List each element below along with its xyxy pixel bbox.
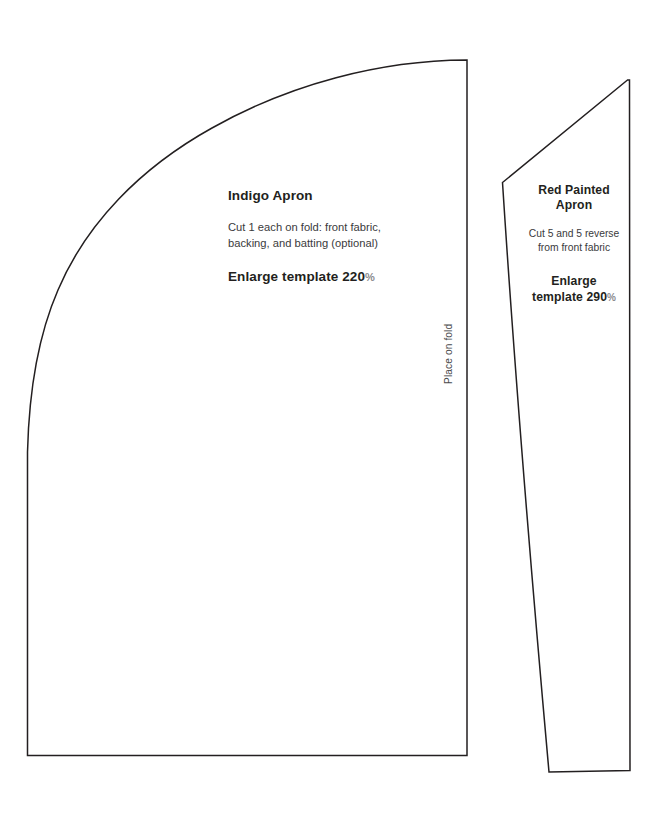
pattern-outlines	[0, 0, 662, 830]
pattern-sheet: Indigo Apron Cut 1 each on fold: front f…	[0, 0, 662, 830]
place-on-fold-note: Place on fold	[443, 370, 455, 384]
red-enlarge-line-1: Enlarge	[551, 274, 596, 288]
red-painted-apron-title: Red Painted Apron	[515, 183, 633, 213]
red-percent-symbol: %	[607, 292, 616, 303]
indigo-percent-symbol: %	[365, 271, 375, 283]
red-title-line-1: Red Painted	[538, 183, 610, 197]
indigo-apron-title: Indigo Apron	[228, 188, 418, 204]
red-instruction-line-2: from front fabric	[538, 242, 610, 253]
indigo-instruction-line-2: backing, and batting (optional)	[228, 237, 378, 249]
red-painted-apron-label: Red Painted Apron Cut 5 and 5 reverse fr…	[515, 183, 633, 306]
indigo-apron-outline	[28, 60, 468, 756]
indigo-apron-instructions: Cut 1 each on fold: front fabric, backin…	[228, 220, 418, 251]
red-title-line-2: Apron	[556, 198, 592, 212]
indigo-instruction-line-1: Cut 1 each on fold: front fabric,	[228, 221, 381, 233]
red-instruction-line-1: Cut 5 and 5 reverse	[529, 228, 619, 239]
red-painted-apron-instructions: Cut 5 and 5 reverse from front fabric	[515, 227, 633, 255]
indigo-apron-enlarge-note: Enlarge template 220%	[228, 269, 418, 285]
indigo-apron-label: Indigo Apron Cut 1 each on fold: front f…	[228, 188, 418, 285]
red-painted-apron-enlarge-note: Enlargetemplate 290%	[515, 273, 633, 306]
red-enlarge-line-2: template 290	[532, 290, 607, 304]
indigo-enlarge-text: Enlarge template 220	[228, 269, 365, 284]
